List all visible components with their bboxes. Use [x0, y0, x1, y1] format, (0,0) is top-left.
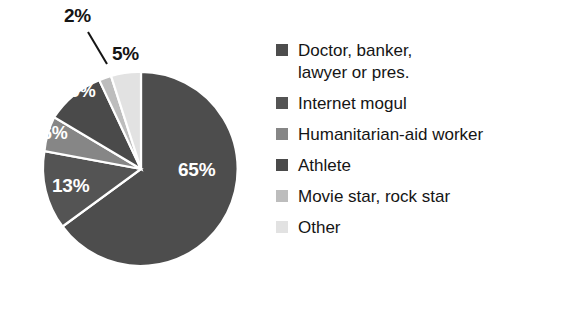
pie-chart-svg	[0, 0, 280, 313]
pie-slice-value-movie-star-rock-star: 2%	[64, 6, 91, 25]
legend-swatch-icon	[276, 190, 288, 202]
legend-item-athlete[interactable]: Athlete	[276, 155, 565, 177]
legend-item-label: Athlete	[298, 155, 351, 177]
pie-slice-value-athlete: 9%	[70, 82, 96, 100]
legend-item-label: Doctor, banker, lawyer or pres.	[298, 40, 412, 84]
leader-line-2-percent	[88, 32, 107, 64]
legend-item-label: Movie star, rock star	[298, 186, 450, 208]
legend-swatch-icon	[276, 221, 288, 233]
legend-swatch-icon	[276, 128, 288, 140]
pie-slice-value-internet-mogul: 13%	[52, 176, 89, 195]
legend-item-other[interactable]: Other	[276, 217, 565, 239]
legend-item-label: Other	[298, 217, 341, 239]
chart-legend: Doctor, banker, lawyer or pres. Internet…	[276, 40, 565, 248]
legend-item-movie-star-rock-star[interactable]: Movie star, rock star	[276, 186, 565, 208]
legend-item-doctor-banker-lawyer-or-pres[interactable]: Doctor, banker, lawyer or pres.	[276, 40, 565, 84]
pie-slice-value-humanitarian-aid-worker: 6%	[42, 124, 68, 142]
pie-slice-value-doctor-banker-lawyer-or-pres: 65%	[178, 160, 215, 179]
pie-slice-value-other: 5%	[112, 44, 139, 63]
legend-item-label: Humanitarian-aid worker	[298, 124, 483, 146]
legend-swatch-icon	[276, 159, 288, 171]
legend-swatch-icon	[276, 97, 288, 109]
legend-swatch-icon	[276, 44, 288, 56]
legend-item-humanitarian-aid-worker[interactable]: Humanitarian-aid worker	[276, 124, 565, 146]
legend-item-internet-mogul[interactable]: Internet mogul	[276, 93, 565, 115]
legend-item-label: Internet mogul	[298, 93, 407, 115]
pie-chart-area: 65% 13% 6% 9% 2% 5%	[0, 0, 280, 313]
pie-chart-figure: 65% 13% 6% 9% 2% 5% Doctor, banker, lawy…	[0, 0, 565, 313]
